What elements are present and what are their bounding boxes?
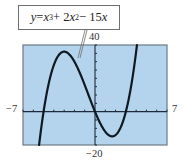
x-max-label: 7: [172, 103, 177, 114]
y-min-label: −20: [86, 148, 102, 159]
eq-minus: − 15: [79, 10, 102, 25]
eq-x3: x: [102, 10, 108, 25]
equation-callout: y = x3 + 2x2 − 15x: [18, 5, 120, 30]
graph-figure: y = x3 + 2x2 − 15x 40 −20 −7 7: [0, 0, 186, 166]
x-min-label: −7: [6, 103, 17, 114]
eq-plus: + 2: [53, 10, 69, 25]
y-max-label: 40: [89, 31, 100, 42]
